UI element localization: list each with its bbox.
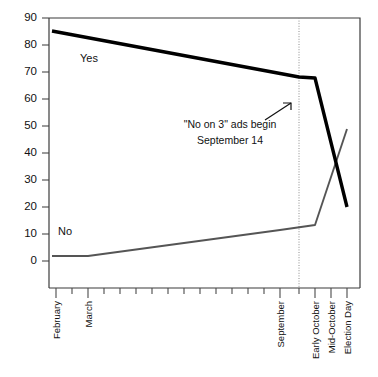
y-axis-tick-labels: 90 80 70 60 50 40 30 20 10 0 bbox=[24, 11, 37, 266]
line-chart: 90 80 70 60 50 40 30 20 10 0 bbox=[0, 0, 378, 377]
x-tick-label-early-october: Early October bbox=[310, 301, 321, 359]
y-tick-label: 70 bbox=[24, 65, 37, 77]
ads-begin-annotation: "No on 3" ads begin September 14 bbox=[184, 103, 291, 146]
y-tick-label: 30 bbox=[24, 173, 37, 185]
annotation-arrow-icon bbox=[265, 103, 291, 120]
y-tick-label: 40 bbox=[24, 146, 37, 158]
y-tick-label: 90 bbox=[24, 11, 37, 23]
series-label-no: No bbox=[58, 225, 72, 237]
y-tick-label: 0 bbox=[31, 254, 37, 266]
x-axis-tick-labels: February March September Early October M… bbox=[51, 301, 353, 359]
x-tick-label-february: February bbox=[51, 301, 62, 339]
y-tick-label: 20 bbox=[24, 200, 37, 212]
chart-container: 90 80 70 60 50 40 30 20 10 0 bbox=[0, 0, 378, 377]
y-axis-ticks bbox=[42, 18, 49, 261]
annotation-line-2: September 14 bbox=[197, 134, 263, 146]
y-tick-label: 10 bbox=[24, 227, 37, 239]
x-tick-label-election-day: Election Day bbox=[342, 301, 353, 355]
y-tick-label: 60 bbox=[24, 92, 37, 104]
y-tick-label: 50 bbox=[24, 119, 37, 131]
y-tick-label: 80 bbox=[24, 38, 37, 50]
x-tick-label-march: March bbox=[83, 301, 94, 327]
series-no-line bbox=[52, 129, 347, 256]
x-tick-label-september: September bbox=[275, 301, 286, 347]
x-axis-ticks bbox=[56, 288, 347, 298]
x-tick-label-mid-october: Mid-October bbox=[326, 301, 337, 353]
series-label-yes: Yes bbox=[80, 52, 98, 64]
annotation-line-1: "No on 3" ads begin bbox=[184, 118, 277, 130]
